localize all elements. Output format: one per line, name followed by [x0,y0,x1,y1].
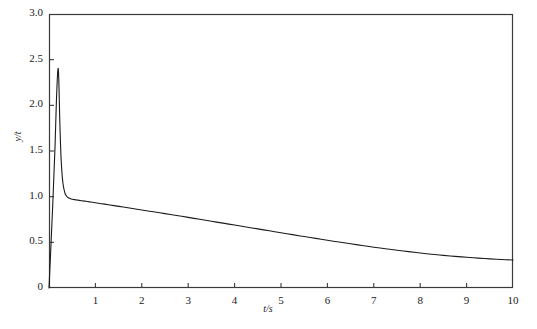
x-tick-label: 4 [215,294,255,306]
line-chart-canvas [0,0,537,329]
x-tick-label: 6 [307,294,347,306]
chart-figure: y/t t/s 00.51.01.52.02.53.0 12345678910 [0,0,537,329]
x-tick-label: 9 [447,294,487,306]
y-tick-label: 2.5 [0,52,43,64]
x-tick-label: 1 [75,294,115,306]
chart-background [0,0,537,329]
y-tick-label: 1.0 [0,189,43,201]
x-tick-label: 10 [493,294,533,306]
x-tick-label: 8 [400,294,440,306]
x-tick-label: 3 [168,294,208,306]
y-tick-label: 0.5 [0,234,43,246]
x-tick-label: 2 [122,294,162,306]
y-tick-label: 1.5 [0,143,43,155]
y-tick-label: 2.0 [0,97,43,109]
x-tick-label: 7 [354,294,394,306]
x-tick-label: 5 [261,294,301,306]
y-tick-label: 0 [0,280,43,292]
y-tick-label: 3.0 [0,6,43,18]
